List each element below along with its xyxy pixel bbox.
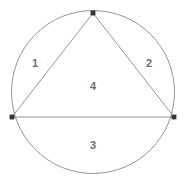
region-label-2: 2: [141, 58, 157, 69]
vertex-marker-bottom-right: [172, 115, 177, 120]
region-label-3: 3: [85, 140, 101, 151]
region-label-1: 1: [27, 58, 43, 69]
vertex-marker-apex: [91, 11, 96, 16]
region-label-4: 4: [85, 81, 101, 92]
triangle-right-side: [93, 13, 174, 117]
geometry-figure: 1 2 3 4: [0, 0, 186, 179]
vertex-marker-bottom-left: [10, 115, 15, 120]
triangle-left-side: [12, 13, 93, 117]
